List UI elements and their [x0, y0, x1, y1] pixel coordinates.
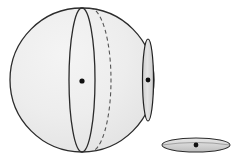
- small-circle-center-point: [146, 78, 151, 83]
- sphere-diagram: [0, 0, 238, 162]
- figure-canvas: [0, 0, 238, 162]
- flat-disc-center-point: [194, 143, 199, 148]
- sphere-center-point: [79, 78, 84, 83]
